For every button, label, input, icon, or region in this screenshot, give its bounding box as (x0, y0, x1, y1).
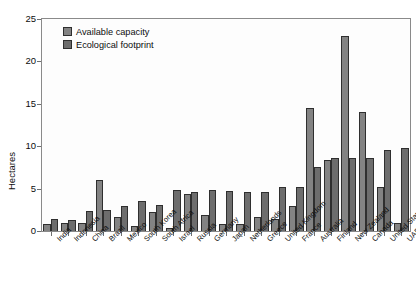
bar-group (340, 19, 358, 231)
x-tick-label: Japan (230, 237, 236, 243)
legend-item-ecological-footprint: Ecological footprint (63, 39, 154, 50)
y-tick-label: 25 (8, 13, 36, 24)
x-tick-label: South Africa (160, 237, 166, 243)
x-tick-label: Greece (265, 237, 271, 243)
bar-group (217, 19, 235, 231)
x-tick-label: South Korea (142, 237, 148, 243)
legend-label: Ecological footprint (76, 40, 154, 50)
x-tick-label: China (90, 237, 96, 243)
bar-group (270, 19, 288, 231)
bar-group (252, 19, 270, 231)
bar-group (393, 19, 411, 231)
x-tick-label: Netherlands (248, 237, 254, 243)
x-tick-label: France (300, 237, 306, 243)
x-axis-labels: IndiaIndonesiaChinaBrazilMexicoSouth Kor… (42, 237, 410, 299)
bar-group (235, 19, 253, 231)
x-tick-label: India (55, 237, 61, 243)
x-tick-label: Mexico (125, 237, 131, 243)
bar-group (358, 19, 376, 231)
x-tick-label: United Kingdom (283, 237, 289, 243)
bar-chart: Hectares 0510152025 IndiaIndonesiaChinaB… (0, 0, 416, 299)
x-tick-label: Australia (318, 237, 324, 243)
bar-group (182, 19, 200, 231)
x-tick-label: Russia (195, 237, 201, 243)
y-tick-label: 10 (8, 140, 36, 151)
y-tick-label: 0 (8, 225, 36, 236)
bar (51, 219, 58, 231)
x-tick-label: United States (388, 237, 394, 243)
y-tick-label: 15 (8, 98, 36, 109)
bar-group (323, 19, 341, 231)
legend-label: Available capacity (76, 27, 149, 37)
x-tick-label: Canada (370, 237, 376, 243)
legend: Available capacity Ecological footprint (63, 26, 154, 52)
bar-group (375, 19, 393, 231)
bar (359, 112, 366, 231)
y-tick-label: 5 (8, 183, 36, 194)
x-tick-label: Brazil (107, 237, 113, 243)
x-tick-label: Israel (177, 237, 183, 243)
bar (341, 36, 348, 231)
bar-group (200, 19, 218, 231)
x-tick-label: Finland (335, 237, 341, 243)
bar (324, 160, 331, 231)
bar-group (42, 19, 60, 231)
legend-swatch-icon (63, 40, 72, 49)
legend-item-available-capacity: Available capacity (63, 26, 154, 37)
bar (43, 224, 50, 231)
y-tick-label: 20 (8, 55, 36, 66)
bar-group (287, 19, 305, 231)
x-tick-label: New Zealand (353, 237, 359, 243)
x-tick-label: Germany (212, 237, 218, 243)
x-tick-label: UAE (405, 237, 411, 243)
legend-swatch-icon (63, 27, 72, 36)
x-tick-label: Indonesia (72, 237, 78, 243)
bar-group (165, 19, 183, 231)
